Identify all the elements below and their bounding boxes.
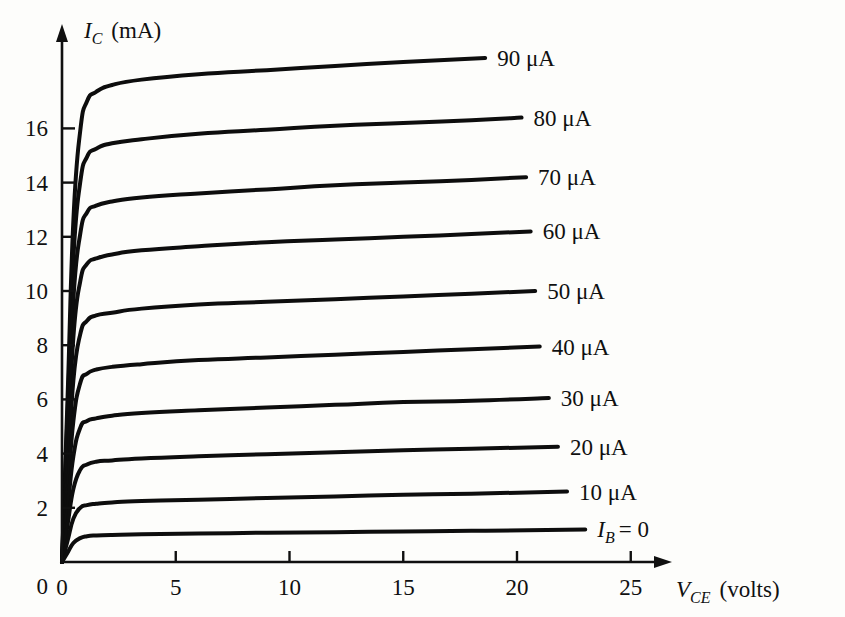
x-tick-label: 25 — [619, 575, 642, 600]
y-tick-label: 4 — [37, 442, 49, 467]
curve-label-20ua: 20 μA — [570, 435, 628, 460]
characteristic-curve — [62, 492, 567, 562]
curve-label-40ua: 40 μA — [552, 335, 610, 360]
x-axis-title: VCE(volts) — [676, 577, 780, 606]
characteristic-curve — [62, 529, 585, 562]
x-tick-label: 20 — [506, 575, 529, 600]
x-axis-arrow-icon — [654, 556, 672, 568]
characteristic-curve — [62, 447, 558, 562]
curve-label-80ua: 80 μA — [534, 106, 592, 131]
x-tick-label: 5 — [170, 575, 182, 600]
curve-label-90ua: 90 μA — [497, 46, 555, 71]
curve-label-70ua: 70 μA — [538, 165, 596, 190]
figure-canvas: 05101520250246810121416 90 μA80 μA70 μA6… — [0, 0, 845, 617]
y-tick-label: 8 — [37, 333, 49, 358]
y-tick-label: 12 — [25, 225, 48, 250]
curve-labels-group: 90 μA80 μA70 μA60 μA50 μA40 μA30 μA20 μA… — [497, 46, 649, 547]
y-tick-label: 16 — [25, 116, 48, 141]
y-tick-label: 14 — [25, 171, 49, 196]
curve-label-60ua: 60 μA — [543, 219, 601, 244]
svg-text:IC(mA): IC(mA) — [83, 18, 161, 47]
characteristic-curve — [62, 291, 535, 562]
characteristic-curves-plot: 05101520250246810121416 90 μA80 μA70 μA6… — [0, 0, 845, 617]
y-tick-label: 10 — [25, 279, 48, 304]
y-axis-title: IC(mA) — [83, 18, 161, 47]
y-tick-label: 6 — [37, 387, 49, 412]
characteristic-curve — [62, 398, 549, 562]
x-tick-label: 15 — [392, 575, 415, 600]
curve-label-50ua: 50 μA — [547, 279, 605, 304]
curve-label-10ua: 10 μA — [579, 480, 637, 505]
x-tick-label: 0 — [56, 575, 68, 600]
svg-text:VCE(volts): VCE(volts) — [676, 577, 780, 606]
curve-label-ib-zero: IB= 0 — [596, 517, 649, 546]
y-tick-label: 2 — [37, 496, 49, 521]
y-axis-arrow-icon — [56, 24, 68, 42]
x-tick-label: 10 — [278, 575, 301, 600]
curve-label-30ua: 30 μA — [561, 386, 619, 411]
origin-label: 0 — [37, 574, 49, 599]
characteristic-curve — [62, 231, 531, 562]
curves-group — [62, 58, 585, 562]
